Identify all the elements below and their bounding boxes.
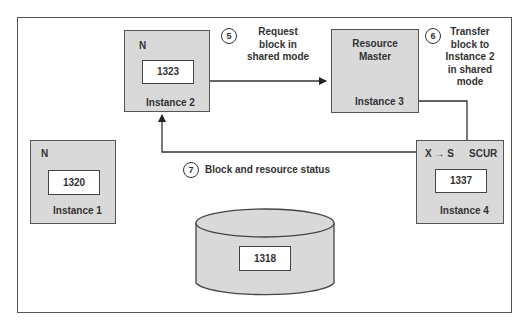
instance-4-box: X → S SCUR 1337 Instance 4	[416, 140, 504, 224]
step-7-text: Block and resource status	[205, 164, 330, 177]
instance-2-box: N 1323 Instance 2	[124, 30, 210, 112]
instance-4-block: 1337	[435, 169, 487, 193]
instance-1-label: Instance 1	[53, 205, 102, 216]
instance-4-label: Instance 4	[440, 205, 489, 216]
instance-1-mode: N	[41, 148, 48, 159]
instance-3-box: Resource Master Instance 3	[331, 29, 419, 113]
instance-3-title-line2: Master	[332, 51, 418, 62]
step-5-text: Request block in shared mode	[238, 26, 318, 64]
instance-3-title-line1: Resource	[332, 38, 418, 49]
instance-4-mode-transition: X → S	[425, 148, 454, 159]
step-7-badge: 7	[183, 162, 199, 178]
instance-3-label: Instance 3	[355, 96, 404, 107]
instance-2-block: 1323	[142, 60, 194, 84]
instance-4-status: SCUR	[469, 148, 497, 159]
instance-2-label: Instance 2	[146, 97, 195, 108]
arrow-status	[162, 115, 417, 152]
step-5-badge: 5	[221, 28, 237, 44]
instance-1-block: 1320	[48, 170, 100, 195]
disk-block: 1318	[239, 246, 291, 271]
step-6-text: Transfer block to Instance 2 in shared m…	[440, 26, 500, 89]
step-6-badge: 6	[425, 28, 441, 44]
instance-1-box: N 1320 Instance 1	[30, 140, 116, 224]
instance-2-mode: N	[139, 40, 146, 51]
